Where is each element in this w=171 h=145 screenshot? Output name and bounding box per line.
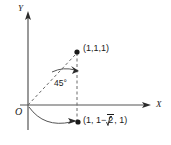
top-point-label: (1,1,1) <box>83 44 109 53</box>
angle-arc-45 <box>52 66 79 74</box>
bottom-point-label-prefix: (1, 1− <box>83 115 106 125</box>
x-axis <box>20 102 151 108</box>
bottom-point-marker <box>75 119 80 124</box>
vector-rotation-diagram: Y X O 45° (1,1,1) (1, 1−2, 1) <box>0 0 171 145</box>
radical-glyph <box>106 116 112 127</box>
square-root-symbol: 2 <box>106 116 114 125</box>
origin-label: O <box>15 107 22 117</box>
bottom-point-label-suffix: , 1) <box>114 115 127 125</box>
bottom-point-label: (1, 1−2, 1) <box>83 116 127 125</box>
top-point-marker <box>74 49 79 54</box>
angle-label: 45° <box>54 79 67 88</box>
origin-to-point-vector <box>28 55 75 105</box>
y-axis-label: Y <box>18 4 23 13</box>
rotation-arc <box>29 107 77 124</box>
x-axis-label: X <box>156 100 162 109</box>
y-axis <box>25 11 31 130</box>
